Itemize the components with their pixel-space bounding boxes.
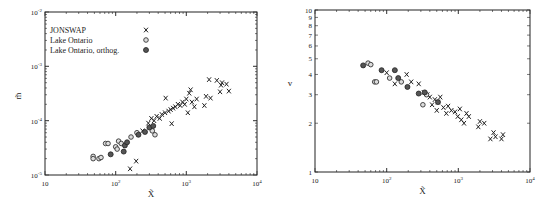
marker-open-circle [368, 62, 373, 67]
marker-open-circle [99, 155, 104, 160]
x-axis-label: X̃ [148, 189, 155, 199]
marker-open-circle [153, 132, 158, 137]
x-tick-label: 102 [111, 179, 121, 188]
marker-filled-circle [435, 100, 440, 105]
marker-filled-circle [392, 68, 397, 73]
y-axis-label: v [288, 78, 293, 88]
left-chart-m-vs-x: 1010210310410-510-410-310-2X̃m̃JONSWAPLa… [13, 8, 262, 199]
marker-filled-circle [125, 140, 130, 145]
y-tick-label: 9 [309, 14, 313, 22]
legend-label: Lake Ontario, orthog. [50, 46, 119, 55]
legend-label: JONSWAP [50, 26, 87, 35]
marker-open-circle [144, 38, 149, 43]
marker-open-circle [115, 147, 120, 152]
x-tick-label: 104 [525, 176, 535, 185]
y-tick-label: 10-3 [31, 62, 43, 71]
marker-filled-circle [361, 63, 366, 68]
marker-open-circle [387, 76, 392, 81]
marker-filled-circle [121, 149, 126, 154]
marker-filled-circle [416, 91, 421, 96]
y-tick-label: 10-4 [31, 117, 43, 126]
y-tick-label: 10-2 [31, 8, 43, 17]
x-tick-label: 10 [312, 177, 320, 185]
figure-canvas: 1010210310410-510-410-310-2X̃m̃JONSWAPLa… [0, 0, 550, 204]
y-tick-label: 1 [309, 169, 313, 177]
x-tick-label: 102 [382, 176, 392, 185]
x-tick-label: 10 [42, 180, 50, 188]
marker-filled-circle [151, 123, 156, 128]
marker-filled-circle [144, 48, 149, 53]
legend-label: Lake Ontario [50, 36, 92, 45]
marker-filled-circle [142, 129, 147, 134]
right-chart-v-vs-x: 1010210310412345678910X̃v [288, 7, 536, 197]
y-tick-label: 10 [305, 7, 313, 15]
marker-filled-circle [108, 152, 113, 157]
marker-open-circle [374, 80, 379, 85]
x-tick-label: 103 [454, 176, 464, 185]
marker-filled-circle [379, 68, 384, 73]
marker-open-circle [91, 156, 96, 161]
y-tick-label: 7 [309, 32, 313, 40]
x-axis-label: X̃ [419, 186, 426, 196]
x-tick-label: 104 [252, 179, 262, 188]
x-tick-label: 103 [182, 179, 192, 188]
marker-open-circle [129, 135, 134, 140]
marker-open-circle [421, 102, 426, 107]
y-axis-label: m̃ [13, 92, 23, 99]
y-tick-label: 8 [309, 22, 313, 30]
marker-filled-circle [136, 132, 141, 137]
y-tick-label: 3 [309, 91, 313, 99]
y-tick-label: 4 [309, 71, 313, 79]
y-tick-label: 2 [309, 120, 313, 128]
marker-filled-circle [405, 84, 410, 89]
y-tick-label: 5 [309, 55, 313, 63]
y-tick-label: 10-5 [31, 171, 43, 180]
marker-filled-circle [422, 90, 427, 95]
marker-filled-circle [396, 76, 401, 81]
y-tick-label: 6 [309, 42, 313, 50]
marker-open-circle [106, 141, 111, 146]
